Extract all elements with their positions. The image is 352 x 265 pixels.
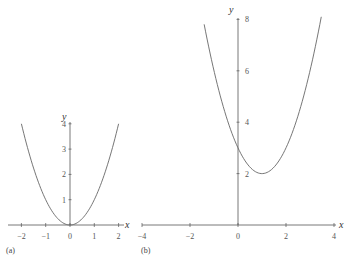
y-tick-label: 1 (62, 196, 66, 205)
x-tick-label: −2 (186, 232, 195, 241)
panel-b: −4−2024 2468 x y (b) (138, 4, 344, 255)
x-tick-label: 4 (332, 232, 336, 241)
x-tick-label: −4 (138, 232, 147, 241)
panel-b-label: (b) (141, 246, 151, 255)
y-tick-label: 8 (245, 15, 249, 24)
panel-b-x-axis-label: x (338, 219, 344, 230)
panel-a-label: (a) (6, 246, 15, 255)
panel-b-y-axis-label: y (228, 4, 234, 15)
x-tick-label: −2 (17, 232, 26, 241)
panel-b-x-ticks: −4−2024 (138, 223, 336, 241)
y-tick-label: 2 (62, 170, 66, 179)
panel-a: −2−1012 1234 x y (a) (6, 111, 130, 255)
x-tick-label: 2 (284, 232, 288, 241)
x-tick-label: 1 (92, 232, 96, 241)
panel-a-x-axis-label: x (124, 219, 130, 230)
chart-figure: −2−1012 1234 x y (a) −4−2024 2468 x y (b… (0, 0, 352, 265)
panel-a-x-ticks: −2−1012 (17, 223, 120, 241)
x-tick-label: 2 (117, 232, 121, 241)
x-tick-label: 0 (236, 232, 240, 241)
y-tick-label: 2 (245, 170, 249, 179)
y-tick-label: 3 (62, 145, 66, 154)
x-tick-label: −1 (41, 232, 50, 241)
x-tick-label: 0 (68, 232, 72, 241)
y-tick-label: 6 (245, 67, 249, 76)
panel-b-curve (204, 17, 321, 174)
panel-a-y-axis-label: y (61, 111, 67, 122)
y-tick-label: 4 (245, 118, 249, 127)
